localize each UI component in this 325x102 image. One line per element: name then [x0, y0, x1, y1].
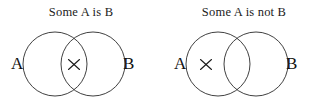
set-label-a: A: [174, 55, 186, 72]
circle-set-b: [61, 32, 125, 96]
x-marker-a-only: [201, 60, 212, 70]
diagram-some-a-is-not-b: Some A is not B A B: [163, 0, 325, 102]
venn-circles-left: [0, 26, 162, 102]
set-label-b: B: [286, 55, 297, 72]
diagram-caption: Some A is not B: [163, 5, 325, 20]
diagram-some-a-is-b: Some A is B A B: [0, 0, 162, 102]
circle-set-a: [23, 32, 87, 96]
venn-circles-right: [163, 26, 325, 102]
venn-diagram-figure: Some A is B A B Some A is not B: [0, 0, 325, 102]
set-label-a: A: [11, 55, 23, 72]
circle-set-b: [224, 32, 288, 96]
diagram-caption: Some A is B: [0, 5, 162, 20]
circle-set-a: [186, 32, 250, 96]
x-marker-overlap: [69, 60, 80, 70]
set-label-b: B: [123, 55, 134, 72]
